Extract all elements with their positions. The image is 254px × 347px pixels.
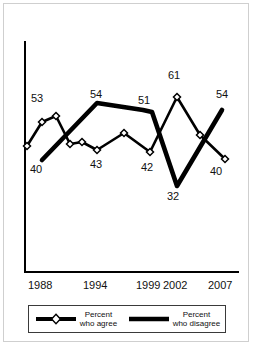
value-label: 40 [30,163,42,175]
value-label: 61 [168,69,180,81]
legend-swatch-agree-icon [34,312,78,326]
legend-entry-agree: Percent who agree [34,310,117,328]
chart-legend: Percent who agree Percent who disagree [28,305,226,333]
x-axis-tick-label: 2002 [163,279,187,291]
value-label: 53 [31,92,43,104]
chart-figure: 53405443514261325440 1988199419992002200… [0,0,254,347]
x-axis-tick-label: 1999 [136,279,160,291]
value-label: 51 [138,94,150,106]
legend-label-agree-line2: who agree [80,319,117,328]
legend-entry-disagree: Percent who disagree [127,310,221,328]
legend-label-agree-line1: Percent [80,310,117,319]
x-axis-tick-label: 1994 [83,279,107,291]
value-label: 40 [210,165,222,177]
value-label: 43 [90,158,102,170]
value-label: 42 [141,161,153,173]
legend-label-disagree-line1: Percent [173,310,221,319]
legend-label-disagree-line2: who disagree [173,319,221,328]
legend-label-agree: Percent who agree [80,310,117,328]
value-label: 54 [216,88,228,100]
x-axis-tick-label: 2007 [208,279,232,291]
legend-label-disagree: Percent who disagree [173,310,221,328]
value-label: 54 [90,88,102,100]
value-label: 32 [167,190,179,202]
legend-swatch-disagree-icon [127,312,171,326]
x-axis-tick-label: 1988 [28,279,52,291]
